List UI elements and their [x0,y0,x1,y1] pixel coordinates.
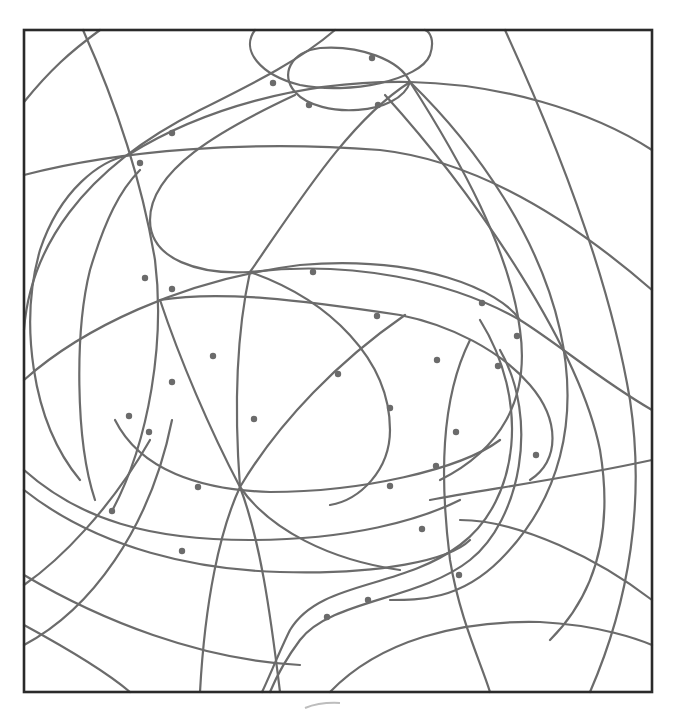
puzzle-dot [387,405,393,411]
long-vertical-left [83,30,158,511]
puzzle-dot [369,55,375,61]
puzzle-dot [210,353,216,359]
puzzle-dot [146,429,152,435]
puzzle-dot [335,371,341,377]
puzzle-dot [533,452,539,458]
radial-6 [200,487,240,692]
curve-set [24,30,652,692]
mid-band [160,296,553,480]
ellipse-bottom-arc [115,420,500,492]
radial-5 [160,300,280,692]
puzzle-dot [324,614,330,620]
lower-left-arc [24,440,150,585]
puzzle-dot [514,333,520,339]
partial-glyph-mark [305,703,340,708]
lower-band-2 [24,490,470,572]
puzzle-dot [169,379,175,385]
right-arc-2 [390,82,568,600]
puzzle-dot [195,484,201,490]
puzzle-frame [24,30,652,692]
puzzle-dot [387,483,393,489]
puzzle-dot [179,548,185,554]
puzzle-dot [142,275,148,281]
puzzle-dot [365,597,371,603]
puzzle-dot [169,130,175,136]
radial-3 [250,82,410,272]
puzzle-dot [375,102,381,108]
puzzle-dot [479,300,485,306]
vertical-mid-right [444,340,490,692]
lower-left-arc-2 [24,420,172,645]
puzzle-dot [109,508,115,514]
s-band-2 [262,320,512,692]
radial-1 [250,272,390,505]
puzzle-dot [374,313,380,319]
ellipse-right-arc [250,269,652,410]
puzzle-dot [169,286,175,292]
right-arc-4 [385,95,604,640]
puzzle-dot [419,526,425,532]
loop-curve [150,95,295,272]
puzzle-dot [495,363,501,369]
puzzle-dot [310,269,316,275]
puzzle-dot [137,160,143,166]
radial-2 [237,272,250,487]
puzzle-dot [453,429,459,435]
puzzle-dot [126,413,132,419]
radial-4 [240,315,405,487]
puzzle-dot [270,80,276,86]
puzzle-dot [306,102,312,108]
right-arc-1 [410,82,522,480]
puzzle-dot [433,463,439,469]
top-ellipse-outer [250,30,432,88]
puzzle-dot [251,416,257,422]
puzzle-dot [456,572,462,578]
puzzle-dot [434,357,440,363]
lower-band-3 [24,575,300,665]
puzzle-canvas [0,0,675,720]
